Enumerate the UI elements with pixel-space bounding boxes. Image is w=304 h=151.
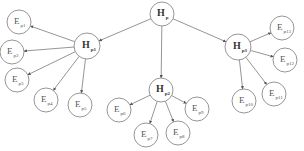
leaf-node-ep4: Ep4 bbox=[34, 88, 58, 112]
root-node-hp: Hp bbox=[150, 2, 174, 26]
leaf-node-ep12: Ep12 bbox=[273, 48, 297, 72]
leaf-node-ep7: Ep7 bbox=[134, 123, 158, 147]
edge-hub-to-leaf-7 bbox=[165, 101, 173, 122]
leaf-node-ep13: Ep13 bbox=[270, 16, 294, 40]
edge-hub-to-leaf-6 bbox=[150, 101, 157, 123]
edge-hub-to-leaf-0 bbox=[30, 26, 74, 42]
hub-node-hp1: Hp1 bbox=[74, 33, 100, 59]
edge-root-to-hub-2 bbox=[173, 19, 226, 42]
edge-root-to-hub-1 bbox=[161, 26, 162, 78]
edge-hub-to-leaf-8 bbox=[172, 96, 187, 104]
leaf-node-ep5: Ep5 bbox=[68, 93, 92, 117]
edge-hub-to-leaf-11 bbox=[251, 50, 274, 56]
leaf-node-ep11: Ep11 bbox=[262, 82, 286, 106]
nodes-layer: HpHp1Hp2Hp3Ep1Ep2Ep3Ep4Ep5Ep6Ep7Ep8Ep9Ep… bbox=[0, 2, 297, 147]
leaf-node-ep1: Ep1 bbox=[7, 10, 31, 34]
edge-hub-to-leaf-1 bbox=[24, 47, 74, 51]
hub-node-hp3: Hp3 bbox=[225, 34, 251, 60]
edge-root-to-hub-0 bbox=[99, 19, 151, 41]
edge-hub-to-leaf-10 bbox=[246, 57, 267, 84]
leaf-node-ep3: Ep3 bbox=[5, 68, 29, 92]
leaf-node-ep6: Ep6 bbox=[107, 98, 131, 122]
leaf-node-ep8: Ep8 bbox=[166, 121, 190, 145]
edge-hub-to-leaf-12 bbox=[250, 33, 271, 42]
edge-hub-to-leaf-5 bbox=[130, 95, 150, 105]
hierarchy-diagram: HpHp1Hp2Hp3Ep1Ep2Ep3Ep4Ep5Ep6Ep7Ep8Ep9Ep… bbox=[0, 0, 304, 151]
leaf-node-ep2: Ep2 bbox=[0, 40, 24, 64]
edge-hub-to-leaf-9 bbox=[239, 60, 242, 89]
leaf-node-ep9: Ep9 bbox=[185, 97, 209, 121]
leaf-node-ep10: Ep10 bbox=[232, 89, 256, 113]
edge-hub-to-leaf-3 bbox=[53, 56, 79, 90]
edge-hub-to-leaf-4 bbox=[81, 59, 85, 93]
hub-node-hp2: Hp2 bbox=[149, 78, 173, 102]
